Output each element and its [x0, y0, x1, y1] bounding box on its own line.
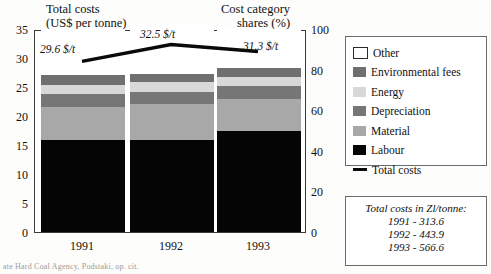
right-axis-title-line2: shares (%): [237, 16, 290, 30]
legend: OtherEnvironmental feesEnergyDepreciatio…: [345, 36, 487, 166]
legend-swatch-icon: [353, 67, 366, 77]
legend-item-environmental-fees[interactable]: Environmental fees: [353, 63, 479, 83]
legend-swatch-icon: [353, 168, 367, 171]
bar-1993: [217, 29, 301, 232]
legend-label: Labour: [371, 144, 404, 156]
y-tick-right-40: 40: [311, 146, 341, 158]
y-tick-left-20: 20: [2, 111, 28, 123]
legend-swatch-icon: [353, 145, 366, 155]
plot-area: [34, 30, 306, 233]
legend-label: Other: [373, 47, 399, 59]
legend-item-other[interactable]: Other: [353, 43, 479, 63]
left-axis-title-line2: (US$ per tonne): [46, 16, 127, 30]
bar-segment-depreciation: [217, 86, 301, 99]
bar-1992: [130, 23, 214, 232]
bar-segment-labour: [130, 140, 214, 232]
legend-swatch-icon: [353, 126, 366, 136]
left-axis-title-line1: Total costs: [46, 2, 100, 16]
legend-label: Energy: [371, 86, 404, 98]
y-tick-left-35: 35: [2, 24, 28, 36]
legend-swatch-icon: [353, 47, 368, 59]
legend-swatch-icon: [353, 106, 366, 116]
y-tick-right-60: 60: [311, 105, 341, 117]
y-tick-right-0: 0: [311, 227, 341, 239]
value-label-1993: 31.3 $/t: [243, 40, 278, 52]
bar-segment-labour: [217, 131, 301, 232]
legend-label: Depreciation: [371, 105, 430, 117]
legend-item-material[interactable]: Material: [353, 121, 479, 141]
bar-segment-energy: [41, 85, 125, 94]
legend-item-total-costs[interactable]: Total costs: [353, 160, 479, 180]
bar-segment-environmental-fees: [130, 74, 214, 83]
note-box-row: 1992 - 443.9: [350, 228, 482, 241]
bar-segment-labour: [41, 140, 125, 232]
legend-item-energy[interactable]: Energy: [353, 82, 479, 102]
legend-item-labour[interactable]: Labour: [353, 141, 479, 161]
legend-swatch-icon: [353, 87, 366, 97]
legend-label: Material: [371, 125, 410, 137]
bar-1991: [41, 29, 125, 232]
y-tick-left-10: 10: [2, 169, 28, 181]
y-tick-left-15: 15: [2, 140, 28, 152]
right-axis-title-line1: Cost category: [221, 2, 290, 16]
x-tick-1991: 1991: [40, 240, 124, 252]
y-tick-right-100: 100: [311, 24, 341, 36]
y-tick-left-0: 0: [2, 227, 28, 239]
legend-label: Total costs: [372, 164, 421, 176]
bar-segment-environmental-fees: [41, 75, 125, 84]
bar-segment-depreciation: [41, 94, 125, 107]
x-tick-1993: 1993: [216, 240, 300, 252]
note-box-heading: Total costs in Zl/tonne:: [350, 202, 482, 215]
note-box-row: 1991 - 313.6: [350, 215, 482, 228]
x-tick-1992: 1992: [129, 240, 213, 252]
bar-segment-material: [130, 104, 214, 139]
y-tick-left-30: 30: [2, 53, 28, 65]
y-tick-left-25: 25: [2, 82, 28, 94]
left-axis-title: Total costs (US$ per tonne): [46, 2, 100, 16]
chart-figure: Total costs (US$ per tonne) Cost categor…: [0, 0, 491, 274]
bar-segment-material: [41, 107, 125, 140]
bar-segment-energy: [217, 77, 301, 86]
legend-item-depreciation[interactable]: Depreciation: [353, 102, 479, 122]
value-label-1991: 29.6 $/t: [40, 43, 75, 55]
bar-segment-environmental-fees: [217, 68, 301, 77]
note-box-row: 1993 - 566.6: [350, 241, 482, 254]
right-axis-title: Cost category shares (%): [221, 2, 290, 16]
legend-label: Environmental fees: [371, 66, 461, 78]
bar-segment-energy: [130, 82, 214, 92]
value-label-1992: 32.5 $/t: [140, 28, 175, 40]
bar-segment-depreciation: [130, 92, 214, 104]
y-tick-left-5: 5: [2, 198, 28, 210]
note-box: Total costs in Zl/tonne: 1991 - 313.6 19…: [345, 196, 487, 266]
source-note: ate Hard Coal Agency, Podstaki, op. cit.: [3, 262, 139, 271]
y-tick-right-20: 20: [311, 186, 341, 198]
bar-segment-material: [217, 99, 301, 131]
y-tick-right-80: 80: [311, 65, 341, 77]
